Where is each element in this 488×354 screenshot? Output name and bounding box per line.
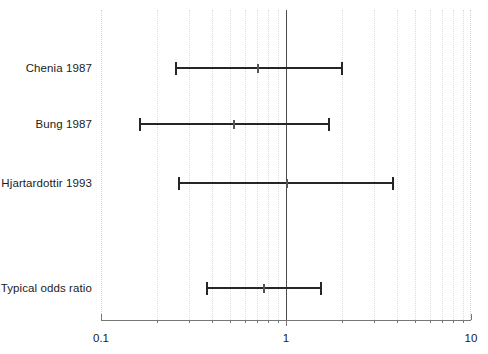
axis-tick-label: 10	[465, 332, 478, 344]
axis-minor-tick	[397, 320, 398, 323]
ci-lower-cap	[175, 62, 177, 75]
study-row: Hjartardottir 1993	[101, 172, 471, 194]
axis-tick-label: 0.1	[93, 332, 109, 344]
axis-minor-tick	[374, 320, 375, 323]
x-axis: 0.1110	[101, 320, 471, 321]
axis-minor-tick	[230, 320, 231, 323]
ci-lower-cap	[178, 177, 180, 190]
axis-minor-tick	[189, 320, 190, 323]
ci-lower-cap	[206, 282, 208, 295]
axis-major-tick	[101, 314, 102, 320]
study-label: Bung 1987	[35, 118, 92, 130]
axis-minor-tick	[453, 320, 454, 323]
axis-major-tick	[286, 320, 287, 326]
axis-major-tick	[471, 314, 472, 320]
study-row: Bung 1987	[101, 113, 471, 135]
point-estimate-marker	[257, 64, 259, 73]
point-estimate-marker	[286, 179, 288, 188]
axis-minor-tick	[415, 320, 416, 323]
axis-minor-tick	[245, 320, 246, 323]
axis-minor-tick	[212, 320, 213, 323]
study-label: Typical odds ratio	[1, 282, 92, 294]
plot-area: Chenia 1987Bung 1987Hjartardottir 1993Ty…	[101, 10, 471, 320]
axis-minor-tick	[157, 320, 158, 323]
ci-upper-cap	[320, 282, 322, 295]
ci-upper-cap	[392, 177, 394, 190]
axis-minor-tick	[463, 320, 464, 323]
forest-plot: Chenia 1987Bung 1987Hjartardottir 1993Ty…	[0, 0, 488, 354]
ci-upper-cap	[341, 62, 343, 75]
ci-lower-cap	[139, 118, 141, 131]
ci-upper-cap	[328, 118, 330, 131]
axis-minor-tick	[442, 320, 443, 323]
axis-minor-tick	[278, 320, 279, 323]
axis-minor-tick	[268, 320, 269, 323]
study-label: Chenia 1987	[26, 62, 92, 74]
axis-minor-tick	[342, 320, 343, 323]
study-row: Chenia 1987	[101, 57, 471, 79]
point-estimate-marker	[263, 284, 265, 293]
point-estimate-marker	[233, 120, 235, 129]
axis-tick-label: 1	[283, 332, 289, 344]
study-row: Typical odds ratio	[101, 277, 471, 299]
study-label: Hjartardottir 1993	[1, 177, 92, 189]
axis-minor-tick	[430, 320, 431, 323]
axis-minor-tick	[257, 320, 258, 323]
